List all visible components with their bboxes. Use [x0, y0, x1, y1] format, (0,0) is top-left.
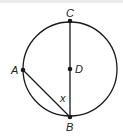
- point-D: [68, 67, 73, 72]
- point-B: [68, 115, 73, 120]
- label-D: D: [75, 63, 83, 75]
- point-A: [21, 68, 26, 73]
- circle-diagram: C D A B x: [0, 0, 123, 136]
- angle-label-x: x: [59, 92, 66, 104]
- label-C: C: [66, 7, 74, 19]
- label-A: A: [10, 64, 18, 76]
- label-B: B: [66, 121, 73, 133]
- point-C: [68, 19, 73, 24]
